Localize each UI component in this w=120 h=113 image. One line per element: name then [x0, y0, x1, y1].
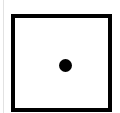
pip-dot-icon	[59, 59, 72, 72]
die-value-label: 1	[15, 18, 16, 19]
die-face[interactable]: 1	[11, 14, 112, 112]
edge-divider	[3, 0, 4, 113]
game-canvas: 1	[0, 0, 120, 113]
